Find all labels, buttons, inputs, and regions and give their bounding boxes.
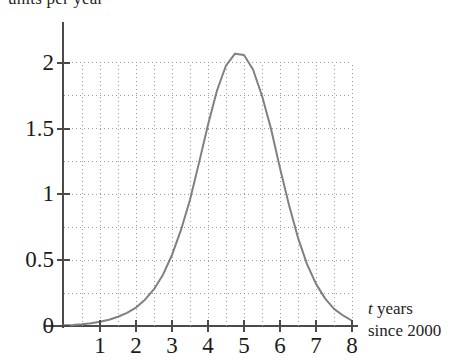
x-tick-label-3: 3: [160, 334, 184, 357]
x-tick-label-2: 2: [124, 334, 148, 357]
x-tick-label-7: 7: [304, 334, 328, 357]
y-tick-label-1: 1: [0, 182, 54, 205]
x-tick-label-8: 8: [340, 334, 364, 357]
y-tick-0: [57, 325, 70, 327]
plot-area: [64, 30, 352, 326]
x-tick-label-1: 1: [88, 334, 112, 357]
x-tick-label-6: 6: [268, 334, 292, 357]
y-tick-1: [57, 193, 70, 195]
y-tick-label-0: 0: [0, 314, 54, 337]
x-axis-caption-line2: since 2000: [368, 320, 441, 342]
y-tick-1.5: [57, 128, 70, 130]
x-axis-caption-line1: t years: [368, 298, 441, 320]
x-tick-label-4: 4: [196, 334, 220, 357]
x-tick-8: [351, 320, 353, 332]
y-tick-2: [57, 62, 70, 64]
x-tick-1: [99, 320, 101, 332]
y-tick-label-group: 00.511.52: [0, 0, 54, 363]
y-tick-label-2: 2: [0, 51, 54, 74]
y-tick-0.5: [57, 259, 70, 261]
x-axis-caption: t years since 2000: [368, 298, 441, 343]
x-tick-4: [207, 320, 209, 332]
x-tick-6: [279, 320, 281, 332]
x-axis-caption-rest: years: [373, 299, 413, 318]
x-tick-5: [243, 320, 245, 332]
curve-layer: [64, 30, 352, 326]
x-tick-2: [135, 320, 137, 332]
chart-figure: units per year 00.511.52 12345678 t year…: [0, 0, 476, 363]
x-tick-label-5: 5: [232, 334, 256, 357]
y-tick-label-1.5: 1.5: [0, 117, 54, 140]
y-tick-label-0.5: 0.5: [0, 248, 54, 271]
x-tick-7: [315, 320, 317, 332]
x-tick-3: [171, 320, 173, 332]
